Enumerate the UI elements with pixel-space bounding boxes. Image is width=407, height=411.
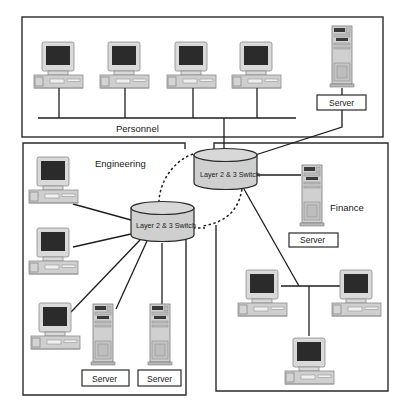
personnel-workstation[interactable] bbox=[167, 42, 216, 88]
eng-server-1-tower[interactable] bbox=[91, 304, 115, 365]
server-label: Server bbox=[300, 235, 325, 245]
server-label: Server bbox=[329, 98, 354, 108]
redundant-link bbox=[159, 154, 193, 201]
personnel-workstation[interactable] bbox=[232, 42, 281, 88]
personnel-server-tower[interactable] bbox=[330, 26, 354, 87]
zone-label-personnel: Personnel bbox=[116, 123, 159, 134]
switch-label: Layer 2 & 3 Switch bbox=[136, 221, 196, 230]
switch-label: Layer 2 & 3 Switch bbox=[200, 170, 260, 179]
server-label: Server bbox=[147, 374, 172, 384]
personnel-workstation[interactable] bbox=[100, 42, 149, 88]
engineering-workstation[interactable] bbox=[29, 157, 78, 203]
finance-workstation[interactable] bbox=[332, 270, 381, 316]
finance-workstation[interactable] bbox=[285, 338, 334, 384]
personnel-workstation[interactable] bbox=[34, 42, 83, 88]
finance-server-tower[interactable] bbox=[300, 165, 324, 226]
server-label: Server bbox=[92, 374, 117, 384]
zone-label-engineering: Engineering bbox=[95, 158, 146, 169]
core-switch[interactable]: Layer 2 & 3 Switch bbox=[194, 149, 260, 190]
zone-label-finance: Finance bbox=[330, 202, 364, 213]
network-diagram: Personnel Server Layer 2 & 3 Switch Fina… bbox=[0, 0, 407, 411]
eng-server-2-tower[interactable] bbox=[148, 304, 172, 365]
engineering-workstation[interactable] bbox=[29, 228, 78, 274]
finance-workstation[interactable] bbox=[238, 270, 287, 316]
eng-switch[interactable]: Layer 2 & 3 Switch bbox=[131, 202, 196, 242]
